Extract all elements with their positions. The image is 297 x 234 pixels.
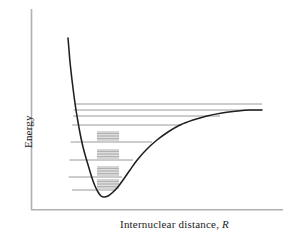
x-axis-label-symbol: R (222, 218, 229, 230)
potential-energy-diagram: Energy Internuclear distance, R (0, 0, 297, 234)
x-axis-label: Internuclear distance, R (26, 218, 297, 230)
y-axis-label: Energy (22, 115, 34, 148)
x-axis-label-text: Internuclear distance, (120, 218, 219, 230)
plot-canvas (0, 0, 297, 234)
vibrational-levels (69, 104, 262, 190)
